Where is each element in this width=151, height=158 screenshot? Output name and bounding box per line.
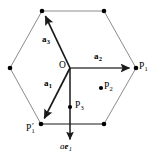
vector-a1-arrow xyxy=(44,68,70,118)
point-dot-p1 xyxy=(134,66,139,71)
label-vector-a1: a1 xyxy=(44,79,52,88)
label-axis-ae1: ae1 xyxy=(60,142,72,151)
label-point-p1: P1 xyxy=(139,62,148,72)
figure-canvas xyxy=(0,0,151,158)
vertex-dot-top-left xyxy=(40,9,45,14)
point-dot-p2 xyxy=(99,86,103,90)
label-vector-a2: a2 xyxy=(94,52,102,61)
vertex-dot-left xyxy=(8,66,13,71)
hexagon-vector-figure: O a3 a2 a1 P1 P1′ P2 P3 ae1 xyxy=(0,0,151,158)
vertex-dot-bottom-right xyxy=(102,122,107,127)
label-point-p2: P2 xyxy=(104,82,113,92)
point-dot-p1-prime xyxy=(39,122,44,127)
label-origin: O xyxy=(59,61,66,71)
label-point-p3: P3 xyxy=(75,101,84,111)
vertex-dot-top-right xyxy=(102,9,107,14)
label-vector-a3: a3 xyxy=(42,35,50,44)
point-dot-p3 xyxy=(68,105,72,109)
label-point-p1-prime: P1′ xyxy=(26,124,37,134)
